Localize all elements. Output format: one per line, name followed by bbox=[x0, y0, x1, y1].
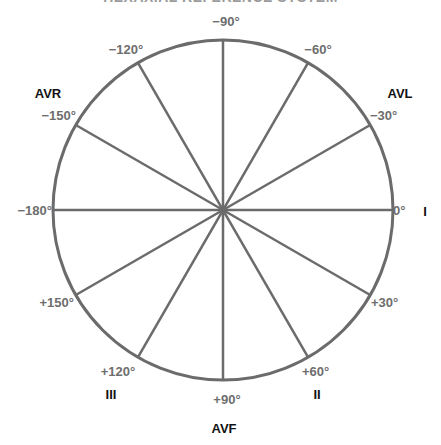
axis-line bbox=[76, 210, 223, 295]
angle-label: +60° bbox=[302, 364, 329, 379]
angle-label: +150° bbox=[40, 295, 74, 310]
lead-label-avl: AVL bbox=[387, 86, 412, 101]
angle-label: −60° bbox=[304, 42, 331, 57]
angle-label: −90° bbox=[212, 14, 239, 29]
axis-line bbox=[76, 125, 223, 210]
axis-line bbox=[223, 210, 308, 357]
axis-line bbox=[138, 63, 223, 210]
angle-label: +120° bbox=[101, 364, 135, 379]
axis-line bbox=[223, 63, 308, 210]
lead-label-avr: AVR bbox=[35, 86, 62, 101]
axis-line bbox=[138, 210, 223, 357]
angle-label: −30° bbox=[370, 108, 397, 123]
angle-label: +90° bbox=[213, 392, 240, 407]
angle-label: +30° bbox=[371, 295, 398, 310]
lead-label-ii: II bbox=[313, 387, 320, 402]
lead-label-i: I bbox=[423, 204, 427, 219]
lead-label-avf: AVF bbox=[211, 421, 236, 436]
lead-label-iii: III bbox=[106, 387, 117, 402]
angle-label: 0° bbox=[393, 203, 405, 218]
axis-line bbox=[223, 125, 370, 210]
lead-labels: IIIIIIAVFAVRAVL bbox=[35, 86, 427, 436]
axis-line bbox=[223, 210, 370, 295]
hexaxial-diagram: 0°+30°+60°+90°+120°+150°−180°−150°−120°−… bbox=[0, 0, 441, 445]
axis-lines bbox=[53, 40, 393, 380]
angle-label: −180° bbox=[18, 203, 52, 218]
angle-label: −120° bbox=[109, 42, 143, 57]
angle-label: −150° bbox=[42, 108, 76, 123]
